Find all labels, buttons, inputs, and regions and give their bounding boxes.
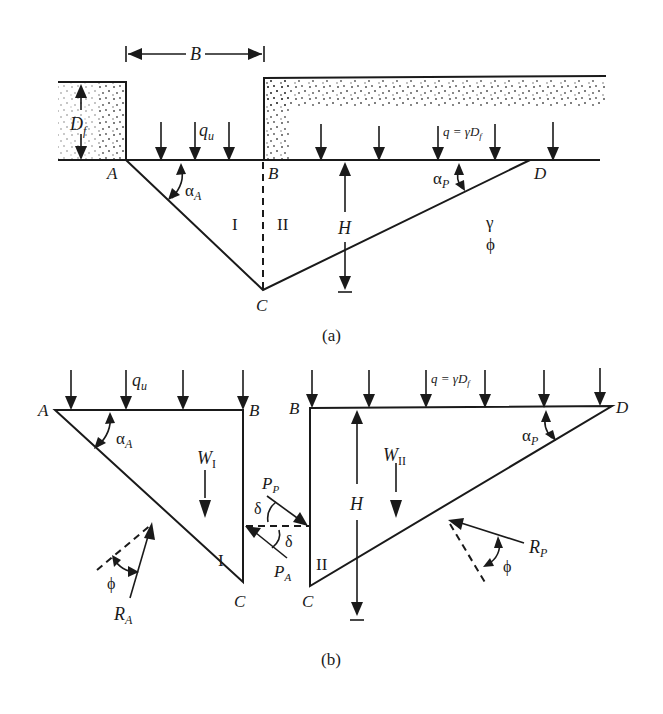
wedge-2-height-label: H xyxy=(349,494,364,514)
zone-2-label: II xyxy=(277,215,289,234)
failure-surface xyxy=(126,160,530,290)
zone-1-label: I xyxy=(232,215,238,234)
caption-a: (a) xyxy=(322,326,341,345)
normal-dashed-line xyxy=(450,524,486,584)
width-dimension: B xyxy=(126,44,264,64)
wedge-1-outline xyxy=(55,410,243,582)
bearing-capacity-wedge-diagram: B Df qu xyxy=(0,0,663,714)
wall-friction-label-1: δ xyxy=(254,500,262,517)
unit-weight-label: γ xyxy=(485,213,494,232)
passive-force-arrow-icon xyxy=(293,512,308,526)
arrow-up-icon xyxy=(339,162,351,176)
left-soil-block: Df xyxy=(58,82,126,162)
weight-arrow-icon xyxy=(390,500,402,518)
wedge-1-point-c: C xyxy=(234,592,246,611)
point-a: A xyxy=(106,164,118,183)
surcharge-label: q = γDf xyxy=(443,124,483,141)
arrow-right-icon xyxy=(248,48,262,60)
point-d: D xyxy=(533,164,547,183)
caption-b: (b) xyxy=(321,650,341,669)
wedge-2-point-c: C xyxy=(302,592,314,611)
footing-load-arrows: qu xyxy=(155,120,235,161)
friction-angle-label: ϕ xyxy=(486,235,495,254)
wedge-2-point-d: D xyxy=(615,398,629,417)
arrow-down-icon xyxy=(351,602,363,616)
subfigure-b: qu αA WI I ϕ RA A B C xyxy=(37,368,629,669)
subfigure-a: B Df qu xyxy=(58,44,606,345)
point-b: B xyxy=(268,164,279,183)
active-force-arrow-icon xyxy=(245,526,261,538)
wedge-1-point-a: A xyxy=(37,401,49,420)
wedge-1-friction-angle: ϕ xyxy=(107,575,115,593)
wall-friction-label-2: δ xyxy=(285,533,293,550)
active-force-label: PA xyxy=(273,562,291,583)
weight-arrow-icon xyxy=(199,500,211,518)
wedge-2-friction-angle: ϕ xyxy=(503,558,511,576)
surcharge-arrows: q = γDf xyxy=(315,122,559,161)
point-c: C xyxy=(256,296,268,315)
reaction-p-label: RP xyxy=(528,537,548,560)
reaction-line xyxy=(458,522,524,543)
wedge-2-weight-label: WII xyxy=(383,445,406,468)
wedge-1: qu αA WI I ϕ RA A B C xyxy=(37,370,260,627)
reaction-arrow-icon xyxy=(144,522,155,540)
width-label: B xyxy=(190,44,201,64)
arrow-up-icon xyxy=(351,410,363,424)
wedge-1-zone-label: I xyxy=(218,551,224,570)
angle-passive-label: αP xyxy=(433,169,450,191)
footing-load-label: qu xyxy=(199,120,214,143)
wedge-1-angle-label: αA xyxy=(116,429,133,451)
interface-forces: PP δ δ PA xyxy=(245,474,309,583)
height-label: H xyxy=(337,218,352,238)
normal-dashed-line xyxy=(97,524,152,570)
wedge-2-surcharge-label: q = γDf xyxy=(431,371,471,388)
wedge-2-angle-label: αP xyxy=(522,426,539,448)
arrow-left-icon xyxy=(128,48,142,60)
angle-active-label: αA xyxy=(185,181,202,203)
wedge-1-point-b: B xyxy=(249,401,260,420)
arrow-down-icon xyxy=(339,276,351,290)
wedge-1-weight-label: WI xyxy=(197,448,216,471)
wedge-2: q = γDf αP H WII II ϕ xyxy=(289,368,629,620)
wedge-2-point-b: B xyxy=(289,399,300,418)
reaction-a-label: RA xyxy=(113,604,133,627)
passive-force-label: PP xyxy=(261,474,279,495)
wedge-2-zone-label: II xyxy=(316,555,328,574)
wedge-1-load-label: qu xyxy=(132,370,147,393)
